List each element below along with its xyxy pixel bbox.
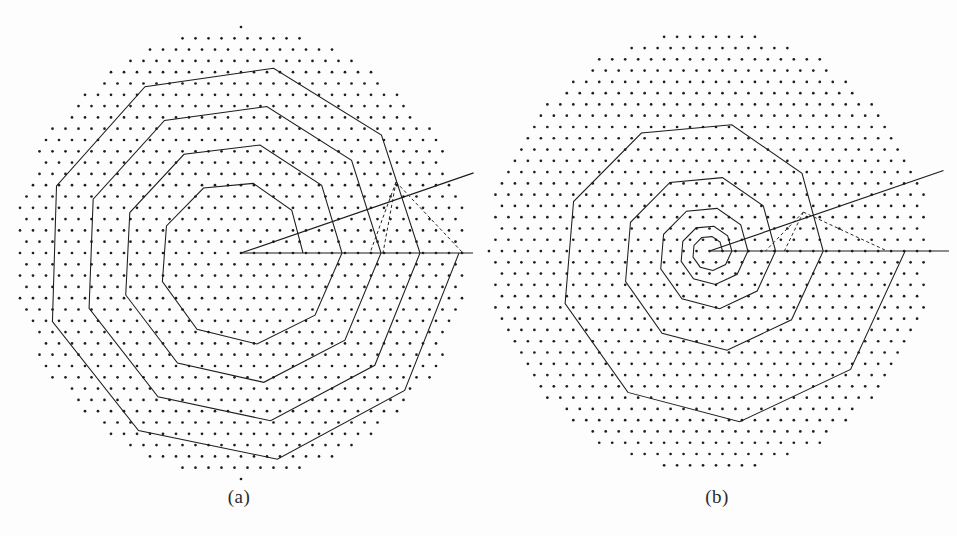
- lattice-dot: [851, 272, 854, 275]
- lattice-dot: [201, 93, 204, 96]
- lattice-dot: [591, 385, 594, 388]
- lattice-dot: [540, 362, 543, 365]
- lattice-dot: [77, 195, 80, 198]
- lattice-dot: [45, 139, 48, 142]
- lattice-dot: [441, 150, 444, 153]
- lattice-dot: [689, 329, 692, 332]
- lattice-dot: [454, 286, 457, 289]
- lattice-dot: [831, 351, 834, 354]
- lattice-dot: [650, 126, 653, 129]
- lattice-dot: [84, 297, 87, 300]
- lattice-dot: [792, 329, 795, 332]
- lattice-dot: [58, 342, 61, 345]
- lattice-dot: [838, 340, 841, 343]
- lattice-dot: [501, 182, 504, 185]
- lattice-dot: [656, 47, 659, 50]
- lattice-dot: [520, 284, 523, 287]
- lattice-dot: [851, 159, 854, 162]
- lattice-dot: [175, 206, 178, 209]
- lattice-dot: [617, 272, 620, 275]
- lattice-dot: [116, 376, 119, 379]
- lattice-dot: [90, 195, 93, 198]
- lattice-dot: [357, 206, 360, 209]
- lattice-dot: [97, 342, 100, 345]
- lattice-dot: [780, 238, 783, 241]
- lattice-dot: [305, 71, 308, 74]
- lattice-dot: [572, 126, 575, 129]
- lattice-dot: [58, 139, 61, 142]
- lattice-dot: [754, 193, 757, 196]
- lattice-dot: [883, 306, 886, 309]
- lattice-dot: [201, 71, 204, 74]
- lattice-dot: [454, 218, 457, 221]
- lattice-dot: [604, 340, 607, 343]
- lattice-dot: [864, 317, 867, 320]
- lattice-dot: [298, 331, 301, 334]
- lattice-dot: [285, 218, 288, 221]
- lattice-dot: [604, 114, 607, 117]
- lattice-dot: [514, 182, 517, 185]
- lattice-dot: [650, 261, 653, 264]
- lattice-dot: [292, 71, 295, 74]
- lattice-dot: [155, 331, 158, 334]
- lattice-dot: [572, 284, 575, 287]
- lattice-dot: [84, 319, 87, 322]
- lattice-dot: [734, 227, 737, 230]
- lattice-dot: [624, 238, 627, 241]
- lattice-dot: [883, 126, 886, 129]
- lattice-dot: [90, 150, 93, 153]
- lattice-dot: [812, 362, 815, 365]
- lattice-dot: [754, 81, 757, 84]
- lattice-dot: [19, 252, 22, 255]
- lattice-dot: [818, 284, 821, 287]
- lattice-dot: [540, 250, 543, 253]
- lattice-dot: [71, 229, 74, 232]
- lattice-dot: [721, 205, 724, 208]
- lattice-dot: [318, 274, 321, 277]
- lattice-dot: [376, 376, 379, 379]
- lattice-dot: [318, 455, 321, 458]
- lattice-dot: [415, 150, 418, 153]
- lattice-dot: [825, 430, 828, 433]
- lattice-dot: [682, 137, 685, 140]
- lattice-dot: [805, 58, 808, 61]
- lattice-dot: [702, 58, 705, 61]
- lattice-dot: [110, 206, 113, 209]
- lattice-dot: [624, 58, 627, 61]
- lattice-dot: [838, 159, 841, 162]
- lattice-dot: [792, 419, 795, 422]
- lattice-dot: [311, 60, 314, 63]
- lattice-dot: [883, 171, 886, 174]
- lattice-dot: [246, 37, 249, 40]
- lattice-dot: [402, 218, 405, 221]
- lattice-dot: [441, 286, 444, 289]
- lattice-dot: [844, 261, 847, 264]
- lattice-dot: [246, 127, 249, 130]
- lattice-dot: [305, 274, 308, 277]
- lattice-dot: [38, 263, 41, 266]
- lattice-dot: [240, 342, 243, 345]
- lattice-dot: [715, 171, 718, 174]
- lattice-dot: [695, 159, 698, 162]
- lattice-dot: [598, 284, 601, 287]
- lattice-dot: [520, 351, 523, 354]
- lattice-dot: [77, 263, 80, 266]
- lattice-dot: [818, 103, 821, 106]
- lattice-dot: [617, 408, 620, 411]
- lattice-dot: [363, 218, 366, 221]
- lattice-dot: [45, 206, 48, 209]
- lattice-dot: [617, 340, 620, 343]
- lattice-dot: [780, 148, 783, 151]
- lattice-dot: [805, 351, 808, 354]
- lattice-dot: [682, 114, 685, 117]
- lattice-dot: [415, 195, 418, 198]
- lattice-dot: [792, 103, 795, 106]
- lattice-dot: [825, 205, 828, 208]
- lattice-dot: [136, 387, 139, 390]
- lattice-dot: [84, 274, 87, 277]
- lattice-dot: [611, 329, 614, 332]
- lattice-dot: [922, 238, 925, 241]
- lattice-dot: [454, 195, 457, 198]
- lattice-dot: [207, 173, 210, 176]
- lattice-dot: [168, 444, 171, 447]
